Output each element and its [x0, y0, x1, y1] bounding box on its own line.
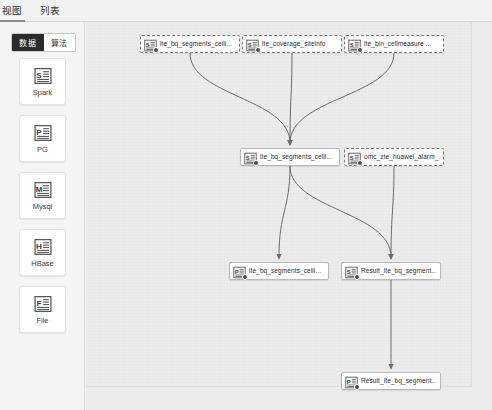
palette-item-list: S Spark P PG M Mysql H — [0, 58, 85, 343]
svg-text:H: H — [36, 242, 42, 251]
palette-mode-segmented-control: 数据 算法 — [11, 33, 76, 52]
graph-node-label: lte_bin_cellmeasure ... — [364, 40, 431, 48]
tab-list[interactable]: 列表 — [38, 3, 63, 20]
node-status-badge — [242, 274, 248, 280]
svg-text:P: P — [347, 379, 351, 385]
palette-item-file[interactable]: F File — [19, 286, 66, 333]
palette-item-label: HBase — [31, 259, 54, 268]
node-status-badge — [153, 47, 159, 53]
pg-doc-icon: P — [34, 124, 52, 142]
svg-text:F: F — [36, 299, 41, 308]
spark-node-icon: S — [345, 265, 358, 278]
svg-text:S: S — [350, 155, 354, 161]
segment-data[interactable]: 数据 — [12, 34, 44, 51]
palette-item-label: Spark — [33, 88, 53, 97]
graph-canvas[interactable]: S lte_bq_segments_celli... S lte_coverag… — [86, 22, 492, 410]
graph-node-label: lte_coverage_siteinfo — [262, 40, 326, 48]
graph-node-n7[interactable]: S Result_lte_bq_segment... — [341, 262, 441, 280]
file-doc-icon: F — [34, 295, 52, 313]
svg-text:S: S — [246, 155, 250, 161]
body-area: 数据 算法 S Spark P PG M — [0, 22, 492, 410]
spark-node-icon: S — [348, 38, 361, 51]
pg-node-icon: P — [233, 265, 246, 278]
segment-algorithm[interactable]: 算法 — [44, 34, 76, 51]
top-tab-bar: 视图 列表 — [0, 0, 492, 22]
graph-node-label: lte_bq_segments_celli... — [160, 40, 232, 48]
graph-node-label: lte_bq_segments_celli... — [260, 153, 332, 161]
graph-node-label: lte_bq_segments_celli... — [249, 267, 321, 275]
graph-node-label: omc_zte_huawei_alarm_... — [364, 153, 439, 161]
palette-item-mysql[interactable]: M Mysql — [19, 172, 66, 219]
hbase-doc-icon: H — [34, 238, 52, 256]
node-status-badge — [357, 160, 363, 166]
svg-text:S: S — [146, 42, 150, 48]
component-palette-sidebar: 数据 算法 S Spark P PG M — [0, 22, 85, 410]
graph-node-n8[interactable]: P Result_lte_bq_segment... — [341, 372, 441, 390]
svg-text:S: S — [36, 71, 42, 80]
graph-node-n2[interactable]: S lte_coverage_siteinfo — [242, 35, 342, 53]
mysql-doc-icon: M — [34, 181, 52, 199]
graph-node-n6[interactable]: P lte_bq_segments_celli... — [229, 262, 329, 280]
spark-node-icon: S — [244, 151, 257, 164]
tab-view[interactable]: 视图 — [0, 3, 25, 22]
node-status-badge — [354, 384, 360, 390]
palette-item-label: PG — [37, 145, 48, 154]
application-window: 视图 列表 数据 算法 S Spark P PG — [0, 0, 492, 410]
node-status-badge — [357, 47, 363, 53]
graph-node-n4[interactable]: S lte_bq_segments_celli... — [240, 148, 340, 166]
pg-node-icon: P — [345, 375, 358, 388]
svg-text:M: M — [35, 185, 42, 194]
node-status-badge — [354, 274, 360, 280]
graph-node-n1[interactable]: S lte_bq_segments_celli... — [140, 35, 240, 53]
graph-node-label: Result_lte_bq_segment... — [361, 267, 436, 275]
svg-text:S: S — [347, 269, 351, 275]
graph-node-label: Result_lte_bq_segment... — [361, 377, 436, 385]
spark-node-icon: S — [348, 151, 361, 164]
node-status-badge — [253, 160, 259, 166]
palette-item-label: File — [36, 316, 48, 325]
svg-text:P: P — [235, 269, 239, 275]
palette-item-hbase[interactable]: H HBase — [19, 229, 66, 276]
canvas-surface[interactable] — [86, 22, 472, 387]
spark-doc-icon: S — [34, 67, 52, 85]
svg-text:S: S — [248, 42, 252, 48]
spark-node-icon: S — [144, 38, 157, 51]
palette-item-pg[interactable]: P PG — [19, 115, 66, 162]
palette-item-spark[interactable]: S Spark — [19, 58, 66, 105]
graph-node-n3[interactable]: S lte_bin_cellmeasure ... — [344, 35, 444, 53]
svg-text:P: P — [36, 128, 42, 137]
palette-item-label: Mysql — [33, 202, 53, 211]
node-status-badge — [255, 47, 261, 53]
svg-text:S: S — [350, 42, 354, 48]
spark-node-icon: S — [246, 38, 259, 51]
graph-node-n5[interactable]: S omc_zte_huawei_alarm_... — [344, 148, 444, 166]
